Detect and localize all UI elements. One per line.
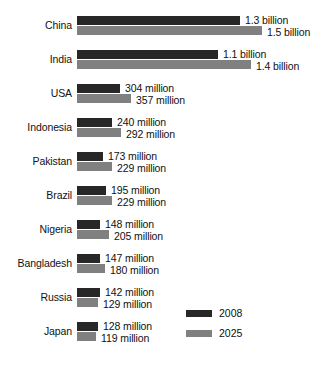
bar-group: 304 million357 million	[77, 84, 322, 108]
value-label-2025: 1.5 billion	[267, 26, 310, 38]
bar-2025	[77, 60, 251, 69]
population-bar-chart: China1.3 billion1.5 billionIndia1.1 bill…	[0, 0, 322, 368]
value-label-2008: 1.3 billion	[245, 14, 288, 26]
legend-item: 2025	[186, 326, 296, 340]
category-label: Japan	[0, 325, 72, 338]
bar-group: 1.1 billion1.4 billion	[77, 50, 322, 74]
category-label: USA	[0, 87, 72, 100]
chart-row: India1.1 billion1.4 billion	[0, 46, 322, 76]
chart-row: Nigeria148 million205 million	[0, 216, 322, 246]
chart-row: USA304 million357 million	[0, 80, 322, 110]
bar-2025	[77, 128, 121, 137]
bar-group: 1.3 billion1.5 billion	[77, 16, 322, 40]
value-label-2008: 1.1 billion	[223, 48, 266, 60]
value-label-2025: 357 million	[136, 94, 185, 106]
bar-2025	[77, 94, 131, 103]
bar-2008	[77, 220, 100, 229]
chart-row: Brazil195 million229 million	[0, 182, 322, 212]
value-label-2008: 147 million	[105, 252, 154, 264]
bar-group: 148 million205 million	[77, 220, 322, 244]
legend-swatch	[186, 330, 212, 337]
bar-2025	[77, 26, 262, 35]
category-label: Bangladesh	[0, 257, 72, 270]
category-label: India	[0, 53, 72, 66]
legend-item: 2008	[186, 306, 296, 320]
bar-2025	[77, 332, 96, 341]
value-label-2025: 1.4 billion	[256, 60, 299, 72]
category-label: Pakistan	[0, 155, 72, 168]
value-label-2025: 205 million	[114, 230, 163, 242]
bar-2008	[77, 254, 100, 263]
value-label-2008: 173 million	[108, 150, 157, 162]
category-label: Russia	[0, 291, 72, 304]
bar-group: 240 million292 million	[77, 118, 322, 142]
bar-2025	[77, 298, 98, 307]
value-label-2025: 119 million	[101, 332, 149, 344]
chart-row: Bangladesh147 million180 million	[0, 250, 322, 280]
bar-2008	[77, 16, 240, 25]
chart-row: Indonesia240 million292 million	[0, 114, 322, 144]
value-label-2008: 148 million	[105, 218, 154, 230]
value-label-2008: 240 million	[117, 116, 166, 128]
bar-2025	[77, 230, 109, 239]
value-label-2008: 195 million	[111, 184, 160, 196]
bar-group: 195 million229 million	[77, 186, 322, 210]
value-label-2008: 142 million	[105, 286, 154, 298]
bar-2008	[77, 152, 103, 161]
chart-row: China1.3 billion1.5 billion	[0, 12, 322, 42]
bar-2008	[77, 288, 100, 297]
bar-group: 147 million180 million	[77, 254, 322, 278]
bar-2008	[77, 50, 218, 59]
category-label: Nigeria	[0, 223, 72, 236]
value-label-2025: 229 million	[117, 196, 166, 208]
bar-2008	[77, 84, 120, 93]
bar-2008	[77, 322, 98, 331]
bar-2008	[77, 118, 112, 127]
category-label: Brazil	[0, 189, 72, 202]
legend-label: 2025	[219, 326, 242, 340]
category-label: Indonesia	[0, 121, 72, 134]
value-label-2025: 292 million	[126, 128, 175, 140]
bar-group: 173 million229 million	[77, 152, 322, 176]
value-label-2025: 129 million	[103, 298, 152, 310]
value-label-2008: 128 million	[103, 320, 152, 332]
category-label: China	[0, 19, 72, 32]
bar-2025	[77, 264, 105, 273]
value-label-2025: 180 million	[110, 264, 159, 276]
legend-label: 2008	[219, 306, 242, 320]
legend-swatch	[186, 310, 212, 317]
chart-row: Pakistan173 million229 million	[0, 148, 322, 178]
value-label-2025: 229 million	[117, 162, 166, 174]
value-label-2008: 304 million	[125, 82, 174, 94]
bar-2025	[77, 162, 112, 171]
bar-2025	[77, 196, 112, 205]
chart-legend: 20082025	[186, 306, 296, 346]
bar-2008	[77, 186, 106, 195]
